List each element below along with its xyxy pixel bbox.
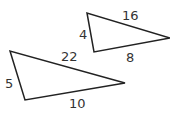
large-triangle: 5 22 10: [5, 49, 125, 111]
small-triangle-top-side-label: 16: [122, 8, 139, 23]
large-triangle-left-side-label: 5: [5, 76, 13, 91]
small-triangle-left-side-label: 4: [79, 27, 87, 42]
small-triangle: 4 16 8: [79, 8, 170, 65]
small-triangle-bottom-side-label: 8: [126, 50, 134, 65]
large-triangle-top-side-label: 22: [61, 49, 78, 64]
triangles-diagram: 4 16 8 5 22 10: [0, 0, 170, 114]
large-triangle-bottom-side-label: 10: [69, 96, 86, 111]
